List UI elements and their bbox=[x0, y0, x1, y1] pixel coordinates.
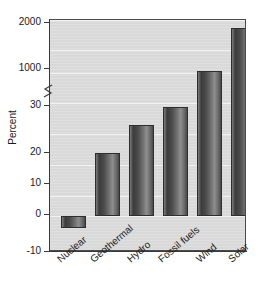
y-tick-label: -10 bbox=[27, 246, 41, 256]
bar-nuclear bbox=[61, 216, 86, 228]
y-tick-label: 20 bbox=[30, 147, 41, 157]
bar-chart: 200010003020100-10 Percent NuclearGeothe… bbox=[0, 0, 258, 306]
bar-wind bbox=[197, 71, 222, 216]
x-axis-line bbox=[49, 251, 247, 252]
y-tick-mark bbox=[44, 214, 50, 215]
y-tick-mark bbox=[44, 22, 50, 23]
y-axis-title: Percent bbox=[7, 100, 18, 156]
y-tick-mark bbox=[44, 251, 50, 252]
y-axis-line bbox=[49, 19, 50, 252]
y-tick-mark bbox=[44, 183, 50, 184]
plot-area bbox=[49, 19, 246, 251]
y-tick-label: 0 bbox=[35, 209, 41, 219]
y-tick-label: 2000 bbox=[19, 17, 41, 27]
y-tick-label: 10 bbox=[30, 178, 41, 188]
bar-fossil-fuels bbox=[163, 107, 188, 216]
axis-break-icon bbox=[42, 83, 56, 99]
bar-geothermal bbox=[95, 153, 120, 216]
y-tick-mark bbox=[44, 105, 50, 106]
y-tick-mark bbox=[44, 68, 50, 69]
y-tick-label: 30 bbox=[30, 100, 41, 110]
bar-solar bbox=[231, 28, 246, 216]
bar-hydro bbox=[129, 125, 154, 216]
y-tick-mark bbox=[44, 152, 50, 153]
bars-layer bbox=[50, 20, 245, 250]
y-tick-label: 1000 bbox=[19, 63, 41, 73]
